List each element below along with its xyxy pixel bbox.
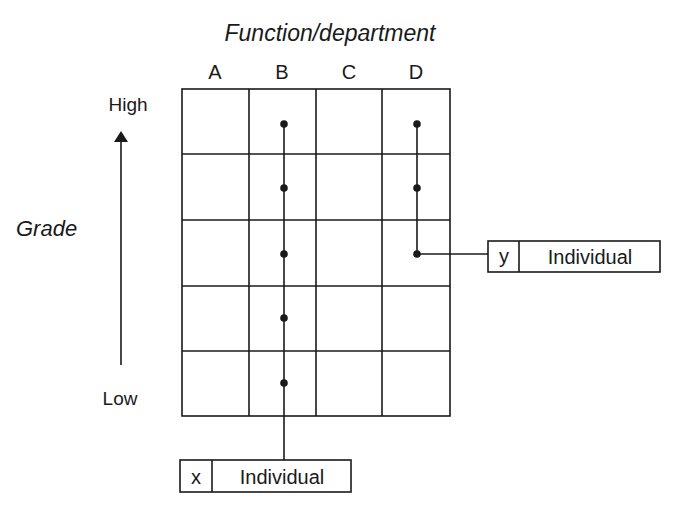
path-y-node (413, 250, 421, 258)
diagram-title: Function/department (225, 20, 438, 46)
grade-grid (182, 89, 450, 416)
path-x-node (280, 379, 288, 387)
low-label: Low (103, 388, 138, 409)
individual-y-label: Individual (548, 246, 633, 268)
column-header-d: D (409, 61, 423, 83)
high-label: High (108, 94, 147, 115)
path-x-node (280, 250, 288, 258)
path-x-node (280, 314, 288, 322)
path-y-node (413, 184, 421, 192)
path-x-node (280, 184, 288, 192)
path-y-node (413, 120, 421, 128)
individual-y-box: y Individual (488, 241, 660, 272)
grade-axis-label: Grade (16, 216, 77, 241)
column-header-a: A (208, 61, 222, 83)
column-header-c: C (342, 61, 356, 83)
individual-x-label: Individual (240, 466, 325, 488)
grade-arrow-icon (114, 131, 128, 365)
column-headers: A B C D (208, 61, 423, 83)
column-header-b: B (275, 61, 288, 83)
path-x-node (280, 120, 288, 128)
individual-y-code: y (499, 245, 509, 267)
individual-x-box: x Individual (180, 460, 351, 492)
career-path-x (280, 120, 288, 460)
grade-function-diagram: Function/department A B C D High Low Gra… (0, 0, 679, 507)
individual-x-code: x (191, 466, 201, 488)
